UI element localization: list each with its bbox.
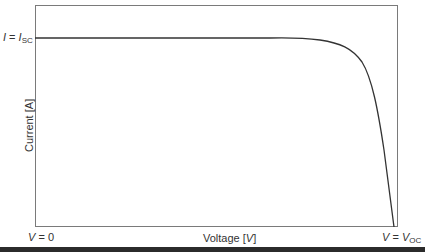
origin-label: V = 0 xyxy=(28,232,54,243)
y-intercept-label: I = ISC xyxy=(3,32,33,45)
x-intercept-label: V = VOC xyxy=(382,232,421,245)
x-axis-label: Voltage [V] xyxy=(203,233,256,244)
iv-curve xyxy=(0,0,425,252)
bottom-border xyxy=(0,247,425,252)
y-axis-label: Current [A] xyxy=(24,99,35,152)
